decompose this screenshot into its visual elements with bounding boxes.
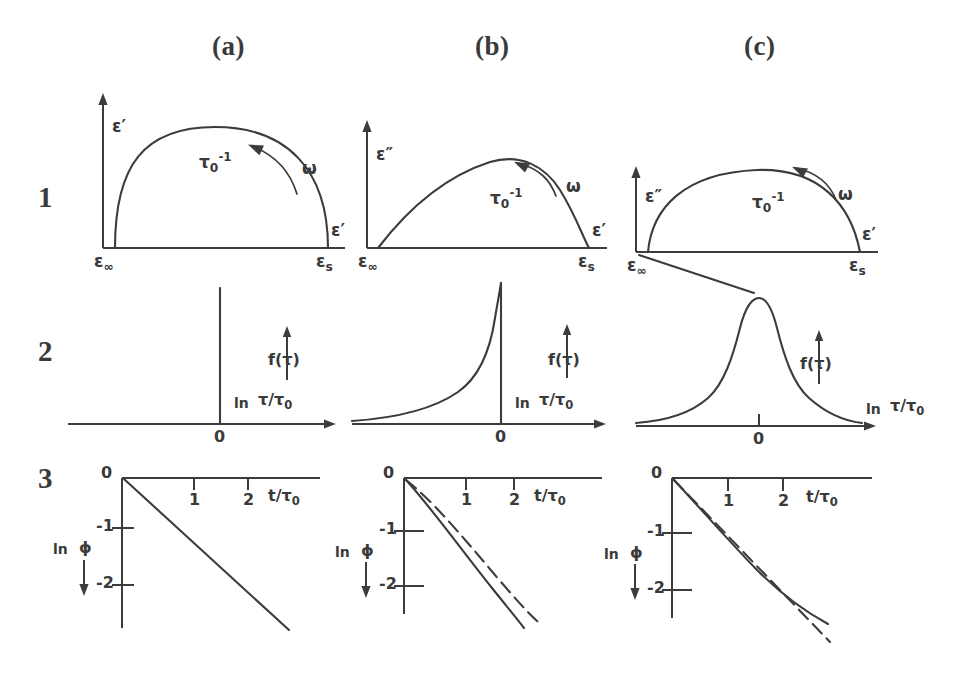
row1b-tau-sup: -1 [509,186,522,200]
row1c-x-axis-label: ε′ [862,226,876,243]
row1b-omega-label: ω [566,178,581,195]
row3a-exponential-decay-line [124,479,289,630]
row3b-y-axis-label-prefix: ln [335,545,350,559]
row2c-y-axis-label: f(τ) [800,356,832,372]
row3c-xtick-label-1: 1 [723,493,734,509]
row-header-1: 1 [38,183,53,212]
row3a-x-num: t [268,486,276,505]
row1c-leader-line [639,255,754,293]
row3b-x-den-sub: 0 [558,494,566,508]
row2b-x-axis-arrowhead [594,419,606,428]
row2a-x-axis-label-ratio: τ/τ0 [258,392,292,412]
row1a-tau-base: τ [199,152,210,172]
column-header-a: (a) [212,33,245,60]
row3b-xtick-label-1: 1 [461,492,472,508]
row3a-x-den: τ [282,486,292,505]
row1b-tau-base: τ [490,188,501,208]
row2c-x-den-sub: 0 [916,404,924,418]
row1b-y-axis-label: ε″ [376,146,393,163]
row1c-epsilon-infinity-label: ε∞ [627,257,647,278]
row3a-x-den-sub: 0 [292,494,300,508]
row2a-x-axis-arrowhead [324,419,336,428]
row2-panel-c-plot [636,298,876,431]
row3-panel-c-plot [662,478,872,642]
row3a-ytick-label-minus1: -1 [96,518,114,534]
row2a-x-den: τ [274,390,284,409]
row3c-ytick-label-minus1: -1 [647,523,665,539]
row3c-x-den: τ [820,487,830,506]
row1c-tau-sup: -1 [771,190,784,204]
row2a-ylabel-arrowhead [283,326,291,337]
row3c-ytick-label-minus2: -2 [647,580,665,596]
row3b-xtick-label-2: 2 [509,492,520,508]
row1c-epsilon-s-label: εs [849,257,866,278]
row3c-ytick-label-0: 0 [651,465,662,481]
row2b-ylabel-arrowhead [563,324,571,335]
row1c-omega-label: ω [838,186,853,203]
row3b-ytick-label-minus2: -2 [379,576,397,592]
row2b-x-axis-label-ratio: τ/τ0 [539,392,573,412]
row2c-x-axis-label-prefix: ln [866,402,881,416]
row3a-y-axis-label-prefix: ln [53,542,68,556]
row1a-y-axis-label: ε′ [112,118,126,135]
row3c-y-axis-direction-arrow [625,562,645,602]
row3c-xtick-label-2: 2 [778,493,789,509]
row2a-x-den-sub: 0 [284,398,292,412]
row1c-eps-s-sub: s [858,264,865,278]
row2b-origin-tick-label: 0 [495,429,506,445]
row3b-ytick-label-0: 0 [383,465,394,481]
row1a-epsilon-s-label: εs [316,253,333,274]
row2b-x-den-sub: 0 [565,398,573,412]
row1c-y-axis-arrowhead [631,166,640,178]
row1a-omega-label: ω [302,160,317,177]
row3c-x-den-sub: 0 [830,495,838,509]
column-header-c: (c) [744,33,775,60]
row3a-ytick-label-minus2: -2 [96,575,114,591]
row1b-eps-inf-sub: ∞ [367,260,377,274]
row1a-tau-label: τ0-1 [199,152,232,174]
row2b-y-axis-label: f(τ) [548,352,580,368]
row3b-y-axis-direction-arrow [356,560,376,600]
row3a-xtick-label-2: 2 [243,492,254,508]
row2b-x-den: τ [555,390,565,409]
row3b-y-axis-label-symbol: ϕ [361,543,374,559]
row1c-tau-label: τ0-1 [752,192,785,214]
row1b-epsilon-infinity-label: ε∞ [358,253,378,274]
row2c-origin-tick-label: 0 [753,431,764,447]
row3a-x-axis-label: t/τ0 [268,488,300,508]
row3a-xtick-label-1: 1 [189,492,200,508]
row3a-y-axis-direction-arrow [74,558,94,598]
row1a-y-axis-arrowhead [98,93,107,105]
row2a-x-axis-label-prefix: ln [234,396,249,410]
row2c-x-axis-label-ratio: τ/τ0 [890,398,924,418]
row3c-y-axis-label-prefix: ln [604,547,619,561]
row2b-x-num: τ [539,390,549,409]
row1a-eps-s-sub: s [325,260,332,274]
row1b-omega-arrowhead [514,162,530,173]
row1b-davidson-cole-arc [378,159,589,248]
column-header-b: (b) [475,33,510,60]
row1c-tau-base: τ [752,192,763,212]
row1b-epsilon-s-label: εs [578,253,595,274]
row1a-x-axis-label: ε′ [331,222,345,239]
row2a-x-num: τ [258,390,268,409]
row2a-y-axis-label: f(τ) [268,352,300,368]
row2c-ylabel-arrowhead [815,330,823,341]
row3b-x-num: t [534,486,542,505]
row1b-tau-label: τ0-1 [490,188,523,210]
row1a-omega-arrowhead [248,145,264,156]
row1a-epsilon-infinity-label: ε∞ [94,253,114,274]
row3b-ytick-label-minus1: -1 [379,521,397,537]
row3c-x-axis-label: t/τ0 [806,489,838,509]
row-header-3: 3 [38,464,53,493]
row2a-origin-tick-label: 0 [214,429,225,445]
row2c-x-den: τ [906,396,916,415]
row2c-x-axis-arrowhead [864,421,876,430]
row-header-2: 2 [38,337,53,366]
row1a-debye-semicircle [115,127,328,248]
row1a-tau-sup: -1 [218,150,231,164]
row1c-y-axis-label: ε″ [645,188,662,205]
row2b-asymmetric-distribution [352,283,501,421]
row2b-x-axis-label-prefix: ln [515,396,530,410]
row1b-y-axis-arrowhead [362,120,371,132]
